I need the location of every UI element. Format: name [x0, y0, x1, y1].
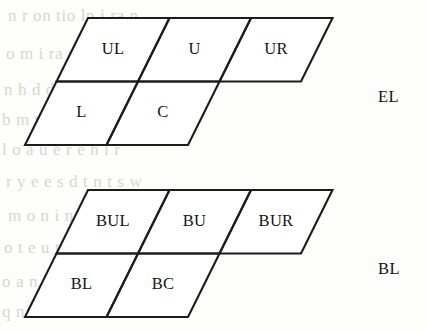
grid-diagram-bl-neighborhood: BULBUBURBLBC: [0, 0, 427, 331]
figure-page: n r on tio lp i ra no m i ra n dn h d d …: [0, 0, 427, 331]
cell-label-bc: BC: [152, 274, 175, 293]
cell-label-bur: BUR: [259, 211, 294, 230]
cell-label-bu: BU: [183, 211, 207, 230]
cell-label-bul: BUL: [96, 211, 130, 230]
figure-caption-el-neighborhood: EL: [378, 87, 399, 107]
cell-label-bl: BL: [71, 274, 93, 293]
figure-caption-bl-neighborhood: BL: [378, 259, 400, 279]
